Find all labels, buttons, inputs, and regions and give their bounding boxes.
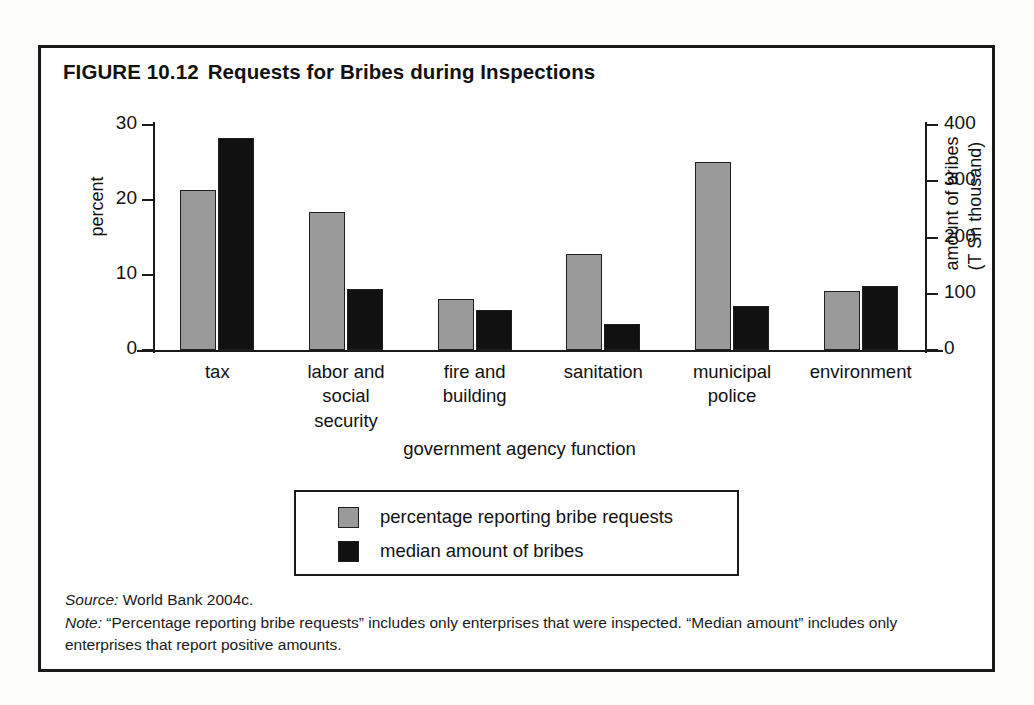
bar-median-amount	[733, 306, 769, 350]
bar-percentage	[438, 299, 474, 350]
bar-median-amount	[862, 286, 898, 350]
y-axis-right-title-line2: (T Sh thousand)	[963, 151, 986, 271]
y-axis-right-title-line1: amount of bribes	[941, 151, 964, 271]
y-axis-left-tick-label: 10	[87, 262, 137, 284]
x-axis-category-label: fire andbuilding	[400, 360, 550, 409]
y-axis-left-tick-label: 0	[87, 337, 137, 359]
chart-legend: percentage reporting bribe requests medi…	[294, 490, 739, 576]
y-axis-left-tick	[142, 274, 153, 276]
x-axis-category-label-line: social	[271, 384, 421, 408]
x-axis-category-label-line: security	[271, 409, 421, 433]
legend-entry-median: median amount of bribes	[338, 540, 584, 562]
y-axis-right-tick-label: 400	[944, 112, 976, 134]
bar-percentage	[824, 291, 860, 350]
figure-footnotes: Source: World Bank 2004c. Note: “Percent…	[65, 588, 970, 656]
y-axis-left-tick	[142, 349, 153, 351]
legend-swatch-black-icon	[338, 541, 359, 562]
legend-swatch-gray-icon	[338, 507, 359, 528]
legend-entry-percentage: percentage reporting bribe requests	[338, 506, 673, 528]
x-axis-category-label-line: sanitation	[528, 360, 678, 384]
bar-median-amount	[218, 138, 254, 350]
y-axis-right-tick-label: 100	[944, 281, 976, 303]
y-axis-right-tick	[927, 237, 938, 239]
y-axis-right-title: amount of bribes (T Sh thousand)	[941, 151, 986, 271]
legend-label-percentage: percentage reporting bribe requests	[380, 506, 673, 528]
note-text: “Percentage reporting bribe requests” in…	[65, 614, 897, 653]
bar-median-amount	[347, 289, 383, 350]
y-axis-left-tick	[142, 124, 153, 126]
x-axis-category-label-line: municipal	[657, 360, 807, 384]
y-axis-right-tick-label: 0	[944, 337, 955, 359]
x-axis-category-label: municipalpolice	[657, 360, 807, 409]
y-axis-left-title: percent	[87, 176, 108, 236]
figure-frame: FIGURE 10.12Requests for Bribes during I…	[38, 45, 995, 672]
y-axis-left-tick	[142, 199, 153, 201]
figure-screenshot: FIGURE 10.12Requests for Bribes during I…	[0, 0, 1034, 705]
x-axis-category-label: sanitation	[528, 360, 678, 384]
chart-canvas: 0102030 0100200300400 percent amount of …	[41, 48, 998, 675]
x-axis-category-label: labor andsocialsecurity	[271, 360, 421, 433]
x-axis-title: government agency function	[41, 438, 998, 460]
y-axis-right-tick	[927, 349, 938, 351]
y-axis-right-tick	[927, 124, 938, 126]
source-label: Source:	[65, 591, 118, 608]
x-axis-category-label-line: environment	[786, 360, 936, 384]
legend-label-median: median amount of bribes	[380, 540, 584, 562]
x-axis-category-label-line: fire and	[400, 360, 550, 384]
bars-layer	[153, 125, 927, 350]
bar-percentage	[180, 190, 216, 350]
source-note: Source: World Bank 2004c.	[65, 589, 970, 611]
bar-median-amount	[604, 324, 640, 350]
note-label: Note:	[65, 614, 102, 631]
x-axis-line	[137, 350, 943, 352]
bar-percentage	[566, 254, 602, 350]
x-axis-category-label: tax	[142, 360, 292, 384]
x-axis-category-label-line: labor and	[271, 360, 421, 384]
bar-percentage	[695, 162, 731, 350]
source-text: World Bank 2004c.	[118, 591, 253, 608]
explanatory-note: Note: “Percentage reporting bribe reques…	[65, 612, 970, 656]
y-axis-right-tick	[927, 180, 938, 182]
x-axis-category-label-line: tax	[142, 360, 292, 384]
y-axis-left-tick-label: 30	[87, 112, 137, 134]
bar-median-amount	[476, 310, 512, 350]
bar-percentage	[309, 212, 345, 350]
x-axis-category-label-line: building	[400, 384, 550, 408]
y-axis-right-tick	[927, 293, 938, 295]
x-axis-category-label-line: police	[657, 384, 807, 408]
x-axis-category-label: environment	[786, 360, 936, 384]
